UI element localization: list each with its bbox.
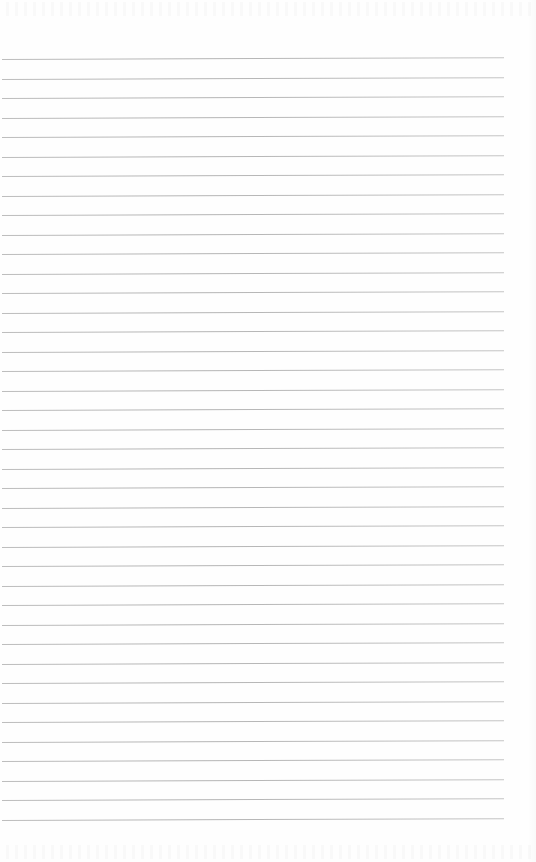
ruled-line: [2, 330, 504, 333]
ruled-line: [2, 759, 504, 762]
ruled-line: [2, 389, 504, 392]
ruled-line: [2, 272, 504, 275]
ruled-line: [2, 447, 504, 450]
top-bleed-through: [0, 2, 536, 16]
ruled-line: [2, 369, 504, 372]
ruled-line: [2, 57, 504, 60]
ruled-line: [2, 291, 504, 294]
ruled-line: [2, 311, 504, 314]
ruled-line: [2, 96, 504, 99]
ruled-line: [2, 623, 504, 626]
ruled-line: [2, 428, 504, 431]
ruled-line: [2, 681, 504, 684]
ruled-line: [2, 818, 504, 821]
ruled-line: [2, 252, 504, 255]
bottom-bleed-through: [0, 845, 536, 859]
ruled-line: [2, 779, 504, 782]
ruled-line: [2, 701, 504, 704]
ruled-line: [2, 798, 504, 801]
ruled-line: [2, 116, 504, 119]
ruled-line: [2, 467, 504, 470]
ruled-line: [2, 213, 504, 216]
ruled-line: [2, 135, 504, 138]
ruled-line: [2, 174, 504, 177]
ruled-line: [2, 408, 504, 411]
ruled-line: [2, 77, 504, 80]
ruled-line: [2, 194, 504, 197]
page-edge-shadow: [528, 0, 536, 862]
ruled-line: [2, 564, 504, 567]
lined-paper-page: [0, 0, 536, 862]
ruled-line: [2, 662, 504, 665]
ruled-line: [2, 603, 504, 606]
ruled-line: [2, 740, 504, 743]
ruled-line: [2, 486, 504, 489]
ruled-line: [2, 350, 504, 353]
ruled-line: [2, 545, 504, 548]
ruled-line: [2, 642, 504, 645]
ruled-line: [2, 506, 504, 509]
ruled-line: [2, 584, 504, 587]
ruled-line: [2, 720, 504, 723]
ruled-line: [2, 525, 504, 528]
ruled-line: [2, 155, 504, 158]
ruled-line: [2, 233, 504, 236]
